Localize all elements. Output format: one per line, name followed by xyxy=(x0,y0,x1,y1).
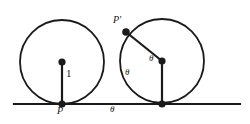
label-radius-length: 1 xyxy=(66,68,72,79)
left-center-dot xyxy=(58,58,65,65)
label-angle-center: θ xyxy=(149,54,153,63)
p-prime-point-dot xyxy=(122,28,130,36)
cycloid-diagram: P P′ 1 θ θ θ xyxy=(0,0,250,124)
right-radius-to-p-prime-segment xyxy=(126,32,162,61)
label-point-p: P xyxy=(57,106,63,116)
prime-mark-icon: ′ xyxy=(119,14,121,25)
right-tangent-point-dot xyxy=(158,100,165,107)
label-angle-arc: θ xyxy=(125,68,129,77)
diagram-canvas xyxy=(0,0,250,124)
right-center-dot xyxy=(158,57,165,64)
label-angle-base: θ xyxy=(110,105,114,114)
label-point-p-prime: P′ xyxy=(113,15,121,25)
